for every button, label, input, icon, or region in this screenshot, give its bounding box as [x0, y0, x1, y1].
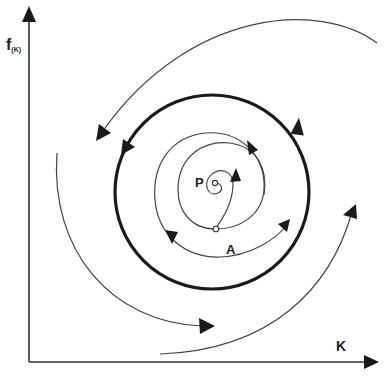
y-axis-arrow-icon: [22, 6, 36, 22]
spiral-arrow-icon: [247, 140, 258, 155]
spiral-arrow-icon: [278, 219, 290, 232]
point-a-label: A: [226, 242, 235, 257]
outer-trajectory-left: [56, 153, 215, 334]
outer-trajectory-arrow-icon: [96, 124, 111, 141]
outer-trajectory-bottom-right: [160, 204, 357, 354]
x-axis-arrow-icon: [364, 355, 379, 369]
point-p: [212, 180, 217, 185]
spiral-arrow-icon: [230, 168, 241, 182]
phase-diagram: [0, 0, 386, 379]
outer-trajectory-arrow-icon: [343, 204, 357, 219]
limit-cycle: [115, 95, 309, 289]
inner-spiral: [155, 133, 290, 257]
y-axis-label: f(K): [6, 36, 21, 54]
point-a: [213, 226, 219, 232]
outer-trajectory-arrow-icon: [199, 318, 215, 334]
x-axis-label: K: [336, 338, 346, 354]
point-p-label: P: [195, 175, 204, 190]
outer-trajectory-top: [96, 20, 377, 141]
